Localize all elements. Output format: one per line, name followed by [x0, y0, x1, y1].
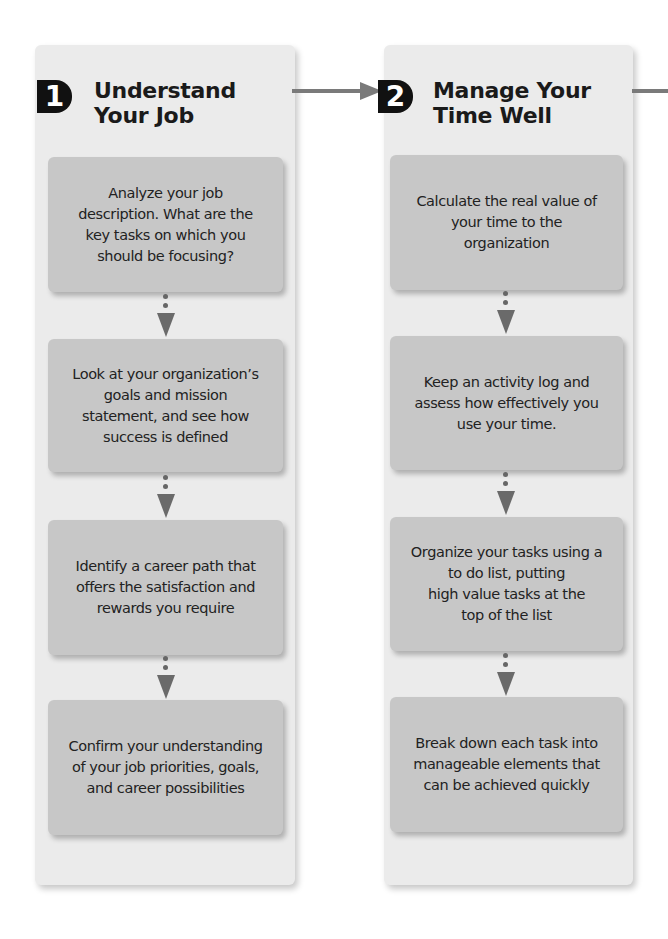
step-2-task-3: Organize your tasks using a to do list, …: [390, 517, 623, 651]
arrow-down-icon: [157, 494, 175, 518]
task-text: Confirm your understanding of your job p…: [69, 736, 263, 799]
task-text: Analyze your job description. What are t…: [78, 183, 252, 267]
dot: [503, 300, 508, 305]
step-1-task-2: Look at your organization’s goals and mi…: [48, 339, 283, 472]
dot: [163, 484, 168, 489]
dot: [503, 472, 508, 477]
arrow-down-icon: [497, 491, 515, 515]
step-2-task-1: Calculate the real value of your time to…: [390, 155, 623, 290]
step-1-number-badge: 1: [37, 80, 72, 113]
arrow-down-icon: [497, 310, 515, 334]
task-text: Calculate the real value of your time to…: [416, 191, 596, 254]
task-text: Keep an activity log and assess how effe…: [415, 372, 599, 435]
dot: [163, 294, 168, 299]
dot: [503, 481, 508, 486]
step-1-task-4: Confirm your understanding of your job p…: [48, 700, 283, 835]
step-2-number-badge: 2: [378, 80, 413, 113]
arrow-down-icon: [157, 313, 175, 337]
step-1-task-3: Identify a career path that offers the s…: [48, 520, 283, 655]
dot: [163, 303, 168, 308]
task-text: Look at your organization’s goals and mi…: [72, 364, 259, 448]
arrow-down-icon: [157, 675, 175, 699]
dot: [163, 475, 168, 480]
connector-line-2-to-3: [632, 89, 668, 93]
task-text: Organize your tasks using a to do list, …: [411, 542, 602, 626]
task-text: Identify a career path that offers the s…: [76, 556, 256, 619]
arrow-down-icon: [497, 672, 515, 696]
connector-line-1-to-2: [292, 89, 364, 93]
step-2-task-4: Break down each task into manageable ele…: [390, 697, 623, 832]
dot: [163, 656, 168, 661]
dot: [503, 662, 508, 667]
dot: [503, 291, 508, 296]
step-2-task-2: Keep an activity log and assess how effe…: [390, 336, 623, 470]
dot: [163, 665, 168, 670]
step-1-task-1: Analyze your job description. What are t…: [48, 157, 283, 292]
step-1-title: Understand Your Job: [94, 78, 274, 128]
dot: [503, 653, 508, 658]
task-text: Break down each task into manageable ele…: [413, 733, 600, 796]
step-2-title: Manage Your Time Well: [433, 78, 623, 128]
